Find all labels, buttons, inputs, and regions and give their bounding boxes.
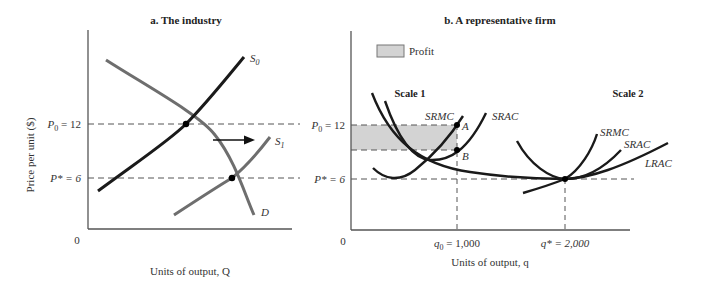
lrac-label: LRAC — [644, 157, 673, 169]
panel-b-x-axis-label: Units of output, q — [451, 256, 529, 268]
profit-legend-label: Profit — [409, 45, 434, 57]
panel-a-origin: 0 — [74, 234, 80, 246]
srmc2-label: SRMC — [600, 126, 629, 138]
point-b — [454, 147, 460, 153]
qstar-label: q* = 2,000 — [541, 237, 590, 249]
demand-label: D — [260, 206, 269, 218]
profit-legend-swatch — [377, 45, 404, 57]
shift-arrow-head-icon — [244, 136, 255, 145]
figure: a. The industry Price per unit ($) 0 Uni… — [0, 0, 708, 292]
long-run-equilibrium-point — [562, 176, 568, 182]
supply-s1-label: S1 — [275, 135, 285, 150]
panel-b-origin: 0 — [340, 235, 346, 247]
srac2-label: SRAC — [624, 138, 651, 150]
panel-a-title: a. The industry — [150, 14, 222, 26]
panel-a-x-axis-label: Units of output, Q — [150, 265, 230, 277]
panel-a-p0-label: P0 = 12 — [47, 118, 81, 133]
equilibrium-point-new — [229, 175, 235, 181]
panel-a-y-axis-label: Price per unit ($) — [24, 117, 37, 192]
panel-a-pstar-label: P* = 6 — [49, 172, 81, 184]
panel-b-title: b. A representative firm — [444, 14, 555, 26]
equilibrium-point-initial — [183, 121, 189, 127]
point-a — [454, 122, 460, 128]
q0-label: q0 = 1,000 — [434, 237, 480, 252]
point-b-label: B — [462, 150, 469, 162]
scale-2-label: Scale 2 — [612, 88, 643, 99]
point-a-label: A — [461, 120, 469, 132]
panel-b-pstar-label: P* = 6 — [313, 173, 345, 185]
panel-b-p0-label: P0 = 12 — [311, 119, 345, 134]
scale-1-label: Scale 1 — [394, 88, 425, 99]
supply-s0-label: S0 — [250, 52, 260, 67]
demand-curve — [106, 60, 254, 215]
srac2-curve — [517, 141, 621, 179]
supply-s1-curve — [174, 137, 270, 215]
panel-a-industry: a. The industry Price per unit ($) 0 Uni… — [24, 14, 300, 277]
srac1-label: SRAC — [492, 110, 519, 122]
srmc1-label: SRMC — [425, 110, 454, 122]
panel-b-firm: b. A representative firm Profit 0 P0 = 1… — [311, 14, 673, 268]
